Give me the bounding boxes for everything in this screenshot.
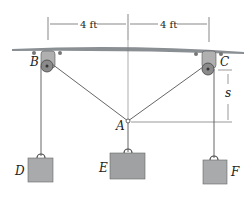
- dimension-right-label: 4 ft: [160, 19, 177, 30]
- label-a: A: [115, 119, 125, 133]
- pulley-c: [194, 51, 223, 75]
- weight-e: E: [98, 149, 145, 179]
- dimension-top: 4 ft 4 ft: [48, 14, 209, 42]
- label-d: D: [14, 164, 25, 178]
- pulley-system-diagram: 4 ft 4 ft s B C A D: [0, 0, 250, 202]
- ring-a: [126, 119, 130, 123]
- label-b: B: [29, 55, 39, 69]
- dimension-s-label: s: [225, 86, 231, 100]
- cable-ac: [128, 67, 203, 121]
- dimension-s: s: [131, 70, 232, 122]
- weight-d: D: [14, 154, 53, 182]
- cable-ab: [52, 64, 128, 121]
- dimension-left-label: 4 ft: [80, 19, 97, 30]
- label-e: E: [98, 161, 108, 175]
- label-c: C: [220, 55, 229, 69]
- weight-f: F: [203, 156, 240, 184]
- label-f: F: [230, 165, 240, 179]
